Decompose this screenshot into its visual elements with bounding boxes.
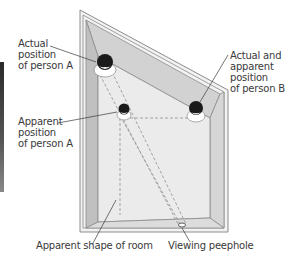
- label-viewing-peephole: Viewing peephole: [168, 240, 254, 251]
- label-person-b: Actual and apparent position of person B: [230, 50, 285, 94]
- label-apparent-position-a: Apparent position of person A: [18, 116, 73, 149]
- peephole-icon: [179, 223, 186, 227]
- ames-room-diagram: Actual position of person A Apparent pos…: [0, 0, 298, 262]
- label-apparent-room-shape: Apparent shape of room: [36, 240, 153, 251]
- label-actual-position-a: Actual position of person A: [18, 38, 73, 71]
